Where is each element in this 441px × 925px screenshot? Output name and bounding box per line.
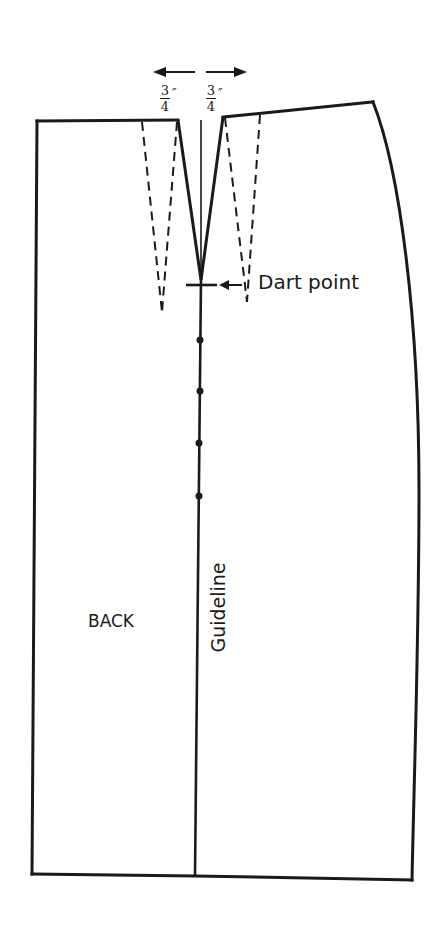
waist-line-right (223, 102, 373, 117)
left-measurement-numerator: 3 (160, 84, 170, 97)
left-side-seam (32, 121, 37, 874)
right-measure-arrow-icon (206, 67, 247, 77)
hem-line (32, 874, 412, 880)
guideline-mark (196, 493, 203, 500)
dart-point-arrow-icon (219, 280, 242, 290)
guideline (195, 278, 201, 876)
right-measurement-denominator: 4 (206, 100, 216, 113)
left-measurement: 3 4 ″ (160, 84, 170, 113)
left-measure-arrow-icon (153, 67, 195, 77)
skirt-back-pattern-diagram (0, 0, 441, 925)
right-side-seam (373, 102, 419, 880)
guideline-mark (197, 388, 204, 395)
guideline-mark (196, 440, 203, 447)
left-dashed-dart (142, 122, 177, 312)
right-measurement-numerator: 3 (206, 84, 216, 97)
right-dashed-dart (225, 115, 260, 302)
right-measurement-unit: ″ (218, 88, 222, 100)
pattern-outline (32, 102, 419, 880)
back-label: BACK (88, 613, 134, 630)
left-measurement-denominator: 4 (160, 100, 170, 113)
left-measurement-unit: ″ (172, 88, 176, 100)
waist-line-left (37, 120, 178, 121)
guideline-mark (197, 337, 204, 344)
guideline-label: Guideline (209, 559, 228, 657)
dart-point-label: Dart point (258, 272, 359, 292)
right-measurement: 3 4 ″ (206, 84, 216, 113)
